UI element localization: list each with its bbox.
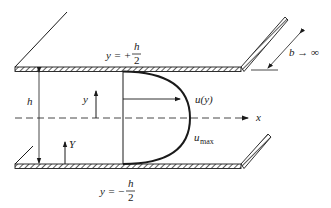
top-plate xyxy=(15,12,288,72)
bottom-wall-eq-lhs: y = − xyxy=(99,185,125,197)
velocity-label: u(y) xyxy=(195,93,213,106)
top-wall-equation: y = + h 2 xyxy=(105,40,141,66)
top-plate-back-edge xyxy=(15,12,67,67)
umax-subscript: max xyxy=(200,137,214,146)
velocity-profile-curve xyxy=(123,72,190,165)
bottom-wall-equation: y = − h 2 xyxy=(99,177,135,203)
top-plate-oblique xyxy=(241,17,288,72)
bottom-wall-eq-den: 2 xyxy=(128,191,134,203)
bottom-wall-eq-num: h xyxy=(128,177,134,189)
wall-Y-label: Y xyxy=(69,138,77,150)
gap-label: h xyxy=(27,95,33,107)
top-wall-eq-lhs: y = + xyxy=(105,49,131,61)
top-wall-eq-den: 2 xyxy=(134,54,140,66)
channel-flow-diagram: b → ∞ y = + h 2 y = − h 2 x h y Y u(y) u… xyxy=(0,0,331,208)
x-axis-label: x xyxy=(255,111,261,123)
local-y-label: y xyxy=(82,93,88,105)
top-wall-eq-num: h xyxy=(134,40,140,52)
bottom-plate-back-edge xyxy=(15,146,33,164)
width-label: b → ∞ xyxy=(289,46,319,58)
umax-label: u max xyxy=(194,131,214,146)
bottom-plate-oblique xyxy=(241,134,271,169)
